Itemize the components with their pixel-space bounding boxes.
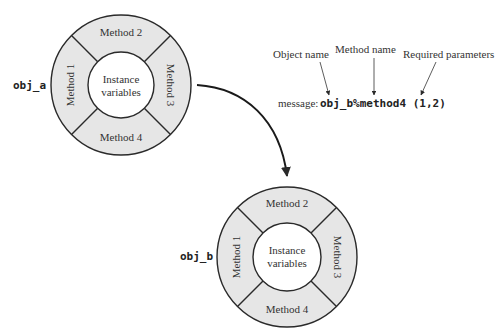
object-name-pointer-arrow — [320, 62, 329, 95]
method-3-label: Method 3 — [332, 236, 344, 279]
message-prefix: message: — [278, 97, 318, 109]
method-4-label: Method 4 — [100, 131, 143, 143]
object-a-name: obj_a — [13, 79, 46, 92]
variables-label: variables — [267, 257, 307, 269]
method-2-label: Method 2 — [100, 26, 142, 38]
object-a-inner-circle — [88, 52, 154, 118]
method-name-annotation: Method name — [335, 43, 396, 55]
message-arrow — [197, 85, 287, 176]
required-parameters-annotation: Required parameters — [403, 48, 494, 60]
method-3-label: Method 3 — [165, 64, 177, 107]
parameters-pointer-arrow — [421, 62, 436, 95]
object-message-diagram: Instance variables Method 2 Method 4 Met… — [0, 0, 500, 335]
message-code: obj_b%method4 (1,2) — [320, 97, 446, 110]
object-b: Instance variables Method 2 Method 4 Met… — [180, 187, 357, 327]
object-name-annotation: Object name — [273, 48, 329, 60]
method-2-label: Method 2 — [266, 197, 308, 209]
object-a: Instance variables Method 2 Method 4 Met… — [13, 15, 191, 155]
method-1-label: Method 1 — [64, 64, 76, 106]
object-b-name: obj_b — [180, 250, 213, 263]
instance-label: Instance — [269, 244, 306, 256]
method-4-label: Method 4 — [266, 303, 309, 315]
variables-label: variables — [101, 86, 141, 98]
instance-label: Instance — [103, 73, 140, 85]
method-1-label: Method 1 — [230, 236, 242, 278]
